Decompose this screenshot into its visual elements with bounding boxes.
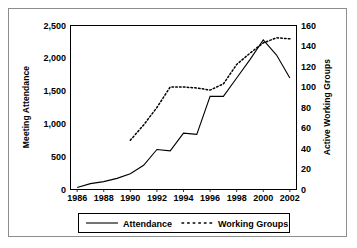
chart-figure: Meeting Attendance Active Working Groups… <box>0 0 357 248</box>
left-axis-ticks: 0 500 1,000 1,500 2,000 2,500 <box>43 21 66 195</box>
left-tick-label: 1,000 <box>43 119 66 129</box>
left-axis-title: Meeting Attendance <box>21 66 31 148</box>
legend-label-attendance: Attendance <box>123 219 172 229</box>
x-tick-label: 1994 <box>173 193 193 203</box>
x-tick-label: 1986 <box>67 193 87 203</box>
right-tick-label: 100 <box>301 82 316 92</box>
plot-area-border <box>71 26 297 190</box>
right-tick-label: 160 <box>301 21 316 31</box>
right-tick-label: 60 <box>301 123 311 133</box>
line-chart: Meeting Attendance Active Working Groups… <box>0 0 357 248</box>
chart-legend: Attendance Working Groups <box>79 214 290 233</box>
x-tick-label: 1998 <box>227 193 247 203</box>
left-tick-label: 0 <box>61 185 66 195</box>
right-tick-label: 120 <box>301 62 316 72</box>
right-axis-ticks: 0 20 40 60 80 100 120 140 160 <box>301 21 316 195</box>
left-tick-label: 1,500 <box>43 86 66 96</box>
x-tick-label: 2002 <box>280 193 300 203</box>
x-tick-label: 1992 <box>147 193 167 203</box>
left-tick-label: 2,000 <box>43 53 66 63</box>
right-tick-label: 0 <box>301 185 306 195</box>
left-tick-label: 2,500 <box>43 21 66 31</box>
right-tick-label: 80 <box>301 103 311 113</box>
x-tick-label: 2000 <box>253 193 273 203</box>
left-tick-label: 500 <box>51 152 66 162</box>
x-tick-label: 1988 <box>94 193 114 203</box>
right-tick-label: 20 <box>301 164 311 174</box>
right-axis-title: Active Working Groups <box>322 59 332 156</box>
legend-label-working-groups: Working Groups <box>218 219 288 229</box>
right-tick-label: 140 <box>301 41 316 51</box>
x-tick-label: 1990 <box>120 193 140 203</box>
x-tick-label: 1996 <box>200 193 220 203</box>
right-tick-label: 40 <box>301 144 311 154</box>
x-axis-ticks: 198619881990199219941996199820002002 <box>67 190 300 204</box>
